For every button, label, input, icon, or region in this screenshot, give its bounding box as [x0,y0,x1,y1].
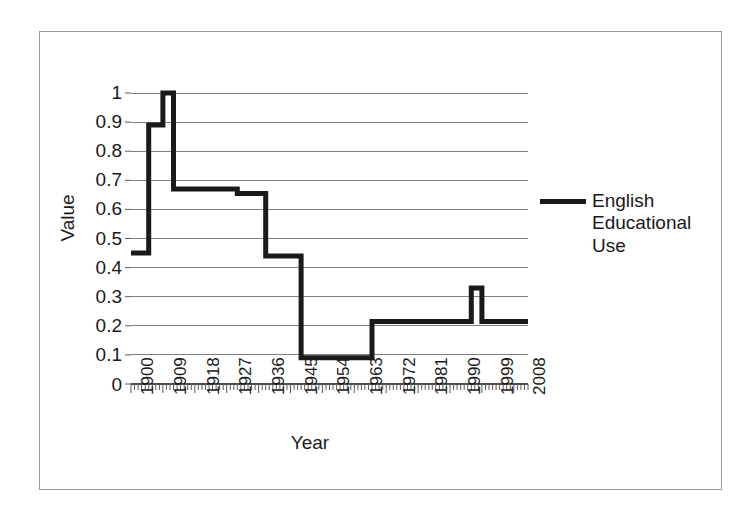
x-tick-label: 2008 [530,357,550,395]
x-tick-label: 1945 [302,357,322,395]
x-tick-label: 1918 [204,357,224,395]
x-tick-label: 1990 [465,357,485,395]
legend-label-line-2: Educational [592,212,710,234]
x-tick-label: 1972 [400,357,420,395]
x-axis-title: Year [100,432,520,454]
y-axis-title: Value [57,138,79,298]
legend-line-swatch [540,199,586,204]
chart-figure-frame: 1 0.9 0.8 0.7 0.6 0.5 0.4 0.3 0.2 0.1 0 … [39,31,722,490]
legend-label-line-1: English [592,190,710,212]
chart-legend: English Educational Use [540,190,710,257]
x-axis-tick-labels: 1900 1909 1918 1927 1936 1945 1954 1963 … [40,32,723,491]
chart-plot-container: 1 0.9 0.8 0.7 0.6 0.5 0.4 0.3 0.2 0.1 0 … [40,32,723,491]
x-tick-label: 1954 [334,357,354,395]
legend-label-line-3: Use [592,235,710,257]
x-tick-label: 1963 [367,357,387,395]
x-tick-label: 1936 [269,357,289,395]
legend-entry-label: English Educational Use [592,190,710,257]
x-tick-label: 1981 [432,357,452,395]
x-tick-label: 1900 [138,357,158,395]
x-tick-label: 1999 [498,357,518,395]
x-tick-label: 1927 [236,357,256,395]
x-tick-label: 1909 [171,357,191,395]
